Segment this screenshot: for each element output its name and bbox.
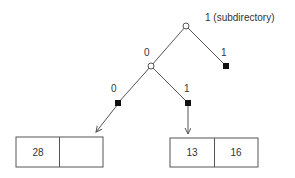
bucket-left-cell-0: 28	[32, 147, 44, 158]
edge-mid-to-left-leaf	[118, 66, 151, 103]
edge-label-mid-right: 1	[184, 83, 190, 94]
edge-mid-to-right-leaf	[151, 66, 188, 103]
root-label: 1 (subdirectory)	[205, 12, 274, 23]
bucket-right-cell-0: 13	[186, 147, 198, 158]
edge-label-root-right: 1	[221, 47, 227, 58]
right-leaf-node-icon	[223, 63, 229, 69]
extendible-hashing-trie-diagram: 1 (subdirectory) 0 1 0 1 28 13 16	[0, 0, 295, 178]
edge-label-mid-left: 0	[111, 83, 117, 94]
right-lower-leaf-node-icon	[185, 100, 191, 106]
edge-root-to-mid	[151, 26, 186, 66]
root-node-icon	[183, 23, 189, 29]
edge-label-root-left: 0	[144, 47, 150, 58]
pointer-arrow-left	[96, 104, 118, 132]
bucket-left: 28	[16, 137, 103, 167]
left-lower-leaf-node-icon	[115, 100, 121, 106]
bucket-right-cell-1: 16	[230, 147, 242, 158]
mid-node-icon	[148, 63, 154, 69]
edge-root-to-right-leaf	[186, 26, 226, 66]
bucket-right: 13 16	[170, 138, 258, 167]
